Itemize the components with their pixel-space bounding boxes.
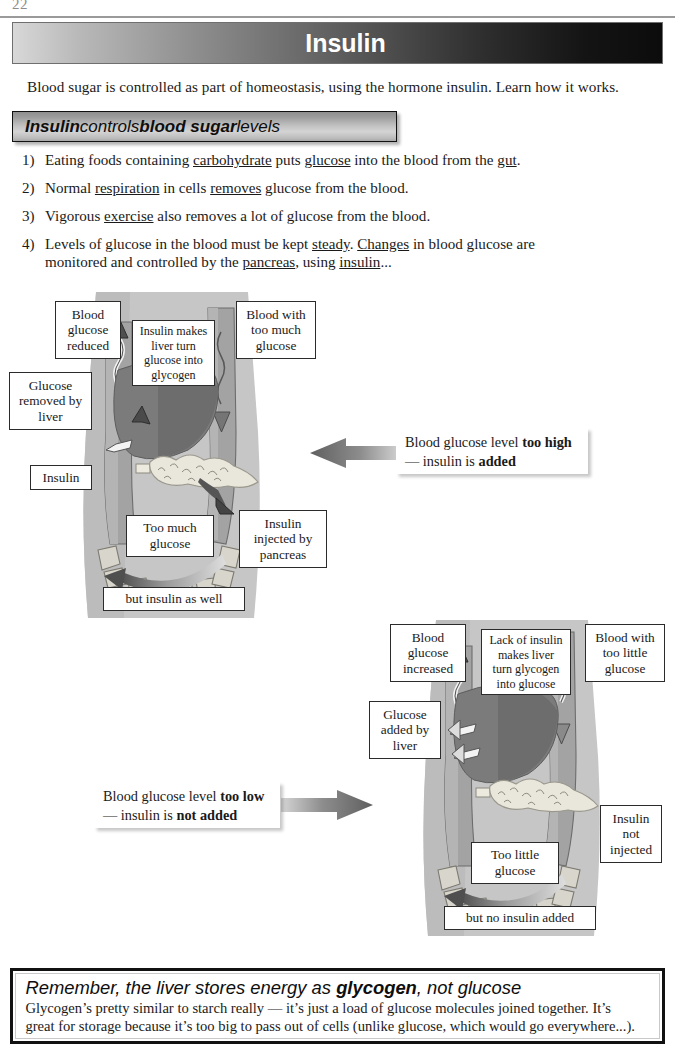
label-too-much-glucose: Too much glucose — [126, 515, 214, 557]
label-blood-with-too-much-glucose: Blood with too much glucose — [236, 301, 316, 359]
label-too-little-glucose: Too little glucose — [471, 842, 559, 884]
remember-title: Remember, the liver stores energy as gly… — [25, 977, 649, 999]
text-run: Levels of glucose in the blood must be k… — [45, 236, 312, 252]
text-run: in cells — [159, 180, 210, 196]
keyword-underlined: Changes — [357, 236, 409, 252]
label-blood-glucose-increased: Blood glucose increased — [390, 624, 466, 682]
list-item: 3)Vigorous exercise also removes a lot o… — [22, 208, 622, 226]
remember-line-2: great for storage because it’s too big t… — [25, 1018, 649, 1036]
remember-box: Remember, the liver stores energy as gly… — [10, 968, 665, 1044]
label-insulin-injected-by-pancreas: Insulin injected by pancreas — [239, 510, 327, 568]
section-heading-text: Insulin controls blood sugar levels — [13, 112, 396, 141]
list-item-text: Eating foods containing carbohydrate put… — [45, 152, 520, 168]
label-glucose-added-by-liver: Glucose added by liver — [369, 701, 441, 759]
text-run: puts — [272, 152, 305, 168]
label-insulin-makes-liver-text: Insulin makes liver turn glucose into gl… — [140, 324, 208, 382]
keyword-underlined: insulin — [339, 254, 380, 270]
label-blood-glucose-increased-text: Blood glucose increased — [403, 630, 453, 677]
text-run: glucose from the blood. — [261, 180, 408, 196]
remember-title-part1: Remember, the liver stores energy as — [25, 977, 336, 998]
arrow-left-too-high — [310, 438, 402, 468]
callout-too-low-line2: — insulin is not added — [103, 806, 271, 825]
page-title: Insulin — [13, 23, 662, 63]
label-lack-of-insulin-text: Lack of insulin makes liver turn glycoge… — [489, 633, 562, 691]
label-too-much-glucose-text: Too much glucose — [143, 520, 196, 551]
callout-too-high-line2-bold: added — [478, 453, 515, 469]
label-insulin-not-injected-text: Insulin not injected — [610, 811, 652, 858]
text-run: into the blood from the — [351, 152, 498, 168]
page-title-banner: Insulin — [12, 22, 663, 64]
callout-too-high-line2: — insulin is added — [405, 452, 579, 471]
label-glucose-removed-by-liver: Glucose removed by liver — [9, 372, 92, 430]
label-insulin-high: Insulin — [30, 465, 92, 490]
remember-line-1: Glycogen’s pretty similar to starch real… — [25, 1000, 649, 1018]
label-but-insulin-as-well-text: but insulin as well — [125, 591, 222, 607]
header-rule — [0, 16, 675, 18]
label-insulin-injected-by-pancreas-text: Insulin injected by pancreas — [254, 516, 313, 563]
callout-too-low-line1: Blood glucose level too low — [103, 787, 271, 806]
label-too-little-glucose-text: Too little glucose — [491, 847, 539, 878]
label-blood-glucose-reduced-text: Blood glucose reduced — [67, 307, 109, 354]
list-item-text: Normal respiration in cells removes gluc… — [45, 180, 408, 196]
keyword-underlined: respiration — [95, 180, 160, 196]
callout-too-low-line2-bold: not added — [176, 807, 237, 823]
text-run: . — [517, 152, 521, 168]
text-run: monitored and controlled by the — [45, 254, 242, 270]
label-glucose-removed-by-liver-text: Glucose removed by liver — [19, 378, 82, 425]
keyword-underlined: pancreas — [242, 254, 295, 270]
callout-too-low-line1-bold: too low — [220, 788, 264, 804]
remember-title-part2: , not glucose — [417, 977, 521, 998]
label-blood-with-too-little-glucose-text: Blood with too little glucose — [595, 630, 654, 677]
callout-too-high-line1-plain: Blood glucose level — [405, 434, 522, 450]
keyword-underlined: exercise — [104, 208, 153, 224]
text-run: Normal — [45, 180, 95, 196]
label-insulin-high-text: Insulin — [43, 470, 80, 486]
section-heading-bar: Insulin controls blood sugar levels — [12, 111, 397, 142]
callout-too-high-line1-bold: too high — [522, 434, 572, 450]
numbered-list: 1)Eating foods containing carbohydrate p… — [22, 152, 622, 282]
label-but-insulin-as-well: but insulin as well — [103, 587, 245, 611]
list-item-text: Levels of glucose in the blood must be k… — [45, 236, 535, 270]
keyword-underlined: removes — [210, 180, 261, 196]
keyword-underlined: glucose — [304, 152, 350, 168]
text-run: Eating foods containing — [45, 152, 193, 168]
text-run: ... — [380, 254, 391, 270]
keyword-underlined: carbohydrate — [193, 152, 272, 168]
text-run: , using — [295, 254, 339, 270]
list-item: 1)Eating foods containing carbohydrate p… — [22, 152, 622, 170]
callout-too-low-line1-plain: Blood glucose level — [103, 788, 220, 804]
list-item-text: Vigorous exercise also removes a lot of … — [45, 208, 430, 224]
callout-too-high: Blood glucose level too high — insulin i… — [396, 428, 588, 474]
page-number: 22 — [12, 0, 28, 13]
callout-too-low-line2-plain: — insulin is — [103, 807, 176, 823]
label-insulin-makes-liver: Insulin makes liver turn glucose into gl… — [132, 320, 215, 386]
list-item: 2)Normal respiration in cells removes gl… — [22, 180, 622, 198]
label-blood-glucose-reduced: Blood glucose reduced — [55, 301, 121, 359]
callout-too-high-line1: Blood glucose level too high — [405, 433, 579, 452]
list-item-number: 2) — [22, 180, 35, 198]
section-heading-word-insulin: Insulin — [25, 117, 80, 137]
label-lack-of-insulin: Lack of insulin makes liver turn glycoge… — [481, 629, 571, 695]
arrow-right-too-low — [281, 790, 373, 820]
callout-too-high-line2-plain: — insulin is — [405, 453, 478, 469]
remember-title-bold: glycogen — [336, 977, 417, 998]
list-item-number: 3) — [22, 208, 35, 226]
text-run: in blood glucose are — [409, 236, 535, 252]
section-heading-word-levels: levels — [237, 117, 280, 137]
section-heading-word-controls: controls — [80, 117, 140, 137]
remember-box-inner: Remember, the liver stores energy as gly… — [15, 973, 659, 1038]
list-item: 4)Levels of glucose in the blood must be… — [22, 236, 622, 271]
label-but-no-insulin-added: but no insulin added — [444, 906, 596, 930]
label-insulin-not-injected: Insulin not injected — [600, 805, 662, 863]
label-blood-with-too-much-glucose-text: Blood with too much glucose — [246, 307, 305, 354]
callout-too-low: Blood glucose level too low — insulin is… — [94, 782, 280, 828]
label-glucose-added-by-liver-text: Glucose added by liver — [381, 707, 429, 754]
keyword-underlined: gut — [497, 152, 516, 168]
keyword-underlined: steady — [312, 236, 350, 252]
text-run: Vigorous — [45, 208, 104, 224]
list-item-number: 1) — [22, 152, 35, 170]
section-heading-word-blood-sugar: blood sugar — [139, 117, 236, 137]
intro-paragraph: Blood sugar is controlled as part of hom… — [27, 78, 619, 96]
label-but-no-insulin-added-text: but no insulin added — [466, 910, 574, 926]
text-run: also removes a lot of glucose from the b… — [154, 208, 431, 224]
